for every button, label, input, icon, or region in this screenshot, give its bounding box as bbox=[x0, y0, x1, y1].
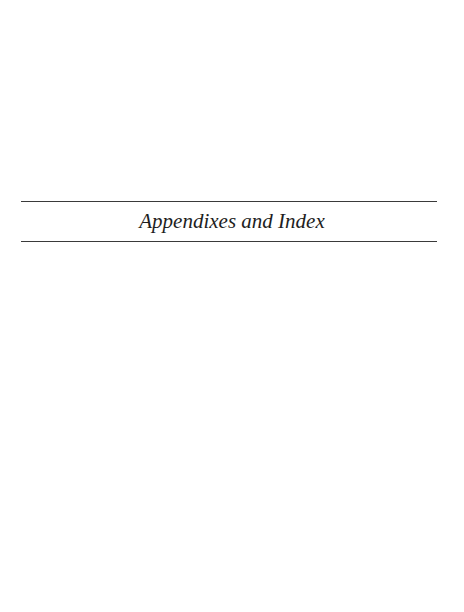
top-rule bbox=[21, 201, 437, 202]
bottom-rule bbox=[21, 241, 437, 242]
section-title: Appendixes and Index bbox=[0, 208, 464, 234]
